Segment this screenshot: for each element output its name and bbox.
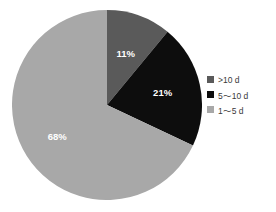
pie-chart-svg: 11% 21% 68% — [12, 10, 202, 200]
legend-swatch-1to5d — [207, 106, 214, 113]
pie-slice-label-gt10d: 11% — [116, 48, 135, 59]
legend-label-5to10d: 5～10 d — [218, 89, 248, 101]
pie-chart-figure: 11% 21% 68% >10 d 5～10 d 1～5 d — [0, 0, 276, 212]
pie-slice-label-5to10d: 21% — [153, 87, 173, 98]
legend-label-gt10d: >10 d — [218, 75, 240, 85]
pie-slice-label-1to5d: 68% — [48, 131, 68, 142]
legend-item-5to10d[interactable]: 5～10 d — [207, 87, 271, 102]
legend-item-1to5d[interactable]: 1～5 d — [207, 102, 271, 117]
chart-legend: >10 d 5～10 d 1～5 d — [207, 72, 271, 117]
legend-swatch-gt10d — [207, 76, 214, 83]
legend-label-1to5d: 1～5 d — [218, 104, 244, 116]
legend-swatch-5to10d — [207, 91, 214, 98]
pie-chart-plot-area: 11% 21% 68% — [12, 10, 202, 200]
pie-slices — [12, 10, 202, 200]
legend-item-gt10d[interactable]: >10 d — [207, 72, 271, 87]
